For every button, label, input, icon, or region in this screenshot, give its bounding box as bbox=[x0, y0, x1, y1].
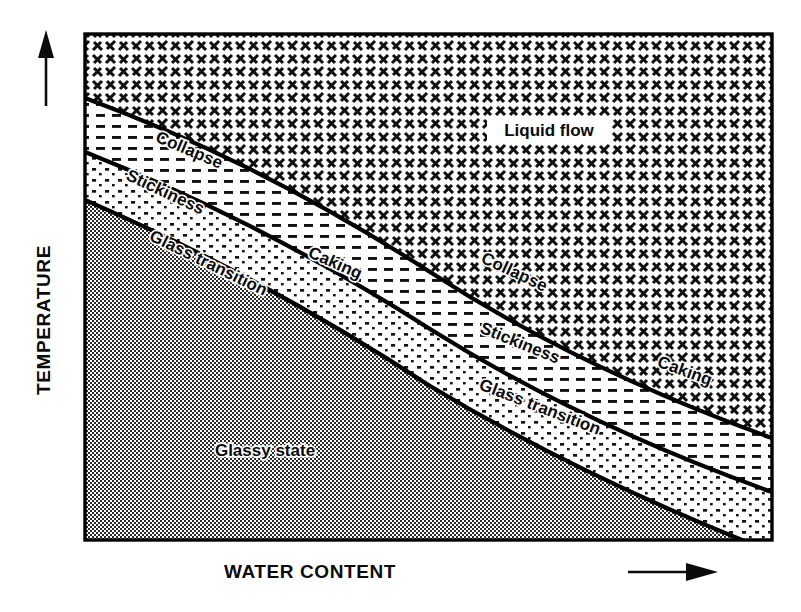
x-axis-label: WATER CONTENT bbox=[224, 561, 396, 582]
label-liquid-flow-group: Liquid flow bbox=[487, 118, 611, 142]
arrow-up-icon bbox=[38, 30, 54, 58]
state-diagram-figure: Liquid flow Glassy state Collapse Collap… bbox=[0, 0, 801, 612]
arrow-right-icon bbox=[686, 563, 718, 581]
label-liquid-flow: Liquid flow bbox=[504, 121, 594, 140]
label-glassy-state-group: Glassy state bbox=[215, 441, 315, 460]
label-glassy-state: Glassy state bbox=[215, 441, 315, 460]
plot-regions bbox=[85, 34, 772, 552]
y-axis-group: TEMPERATURE bbox=[33, 30, 54, 395]
x-axis-group: WATER CONTENT bbox=[224, 561, 718, 582]
y-axis-label: TEMPERATURE bbox=[33, 245, 54, 395]
